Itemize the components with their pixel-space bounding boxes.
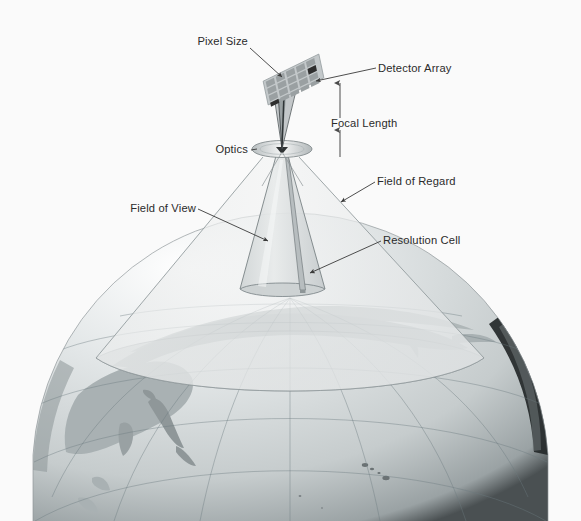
optics-label: Optics	[215, 143, 248, 155]
field-of-regard-label: Field of Regard	[377, 175, 456, 187]
optics-geometry-diagram: Focal Length Pixel Size Detector Array O…	[0, 0, 581, 521]
resolution-cell-label: Resolution Cell	[383, 234, 461, 246]
pixel-size-label: Pixel Size	[197, 35, 248, 47]
focal-length-label: Focal Length	[331, 117, 397, 129]
field-of-view-label: Field of View	[130, 202, 197, 214]
detector-array-label: Detector Array	[378, 62, 452, 74]
resolution-cell-base	[300, 290, 306, 293]
figure-root: Focal Length Pixel Size Detector Array O…	[0, 0, 581, 521]
